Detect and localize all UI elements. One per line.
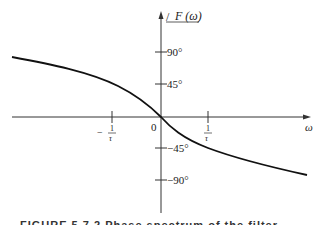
neg-frac-den: τ <box>109 134 113 143</box>
phase-curve <box>12 57 307 175</box>
figure-caption: FIGURE 5.7.2 Phase spectrum of the filte… <box>20 219 278 225</box>
pos-frac-den: τ <box>205 134 209 143</box>
neg-frac-num: 1 <box>110 124 114 133</box>
neg-sign: − <box>97 127 103 138</box>
x-axis-label: ω <box>305 121 313 133</box>
label-45: 45° <box>167 78 182 90</box>
phase-plot: / F (ω) 90° 45° −45° −90° 0 − 1 τ 1 τ ω <box>0 0 322 225</box>
label-m45: −45° <box>167 142 189 154</box>
origin-label: 0 <box>151 121 157 133</box>
x-axis-arrow-icon <box>303 115 311 120</box>
y-axis-label: F (ω) <box>174 9 202 23</box>
pos-frac-num: 1 <box>206 124 210 133</box>
y-axis-arrow-icon <box>159 11 164 19</box>
label-m90: −90° <box>167 174 189 186</box>
label-90: 90° <box>167 46 182 58</box>
